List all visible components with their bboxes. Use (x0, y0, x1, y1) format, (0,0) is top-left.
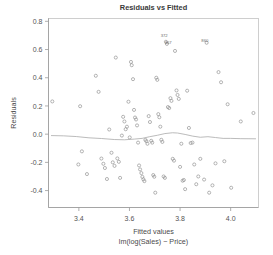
data-point (119, 176, 122, 179)
data-point (125, 125, 128, 128)
data-point (187, 126, 190, 129)
data-point (139, 168, 142, 171)
data-point (120, 134, 123, 137)
data-point (199, 157, 202, 160)
y-tick-label--0.2: -0.2 (30, 159, 42, 166)
lowess-smoother-line (51, 133, 256, 140)
data-point (175, 89, 178, 92)
data-point (105, 177, 108, 180)
data-point (138, 164, 141, 167)
x-axis-sublabel: lm(log(Sales) ~ Price) (119, 237, 188, 246)
data-point (108, 128, 111, 131)
data-point (100, 157, 103, 160)
outlier-label-367: 367 (165, 40, 173, 45)
outlier-labels: 372367860 (161, 33, 209, 45)
data-point (116, 157, 119, 160)
plot-box (49, 19, 259, 208)
data-point (239, 120, 242, 123)
data-point (184, 188, 187, 191)
data-point (173, 49, 176, 52)
data-point (111, 161, 114, 164)
data-point (114, 56, 117, 59)
x-tick-label-3.6: 3.6 (125, 215, 135, 222)
data-point (103, 166, 106, 169)
y-tick-label-0.4: 0.4 (33, 74, 43, 81)
data-point (148, 120, 151, 123)
data-point (186, 89, 189, 92)
x-tick-label-3.8: 3.8 (175, 215, 185, 222)
x-tick-label-4.0: 4.0 (226, 215, 236, 222)
data-point (214, 162, 217, 165)
plot-frame (49, 19, 259, 208)
data-point (77, 163, 80, 166)
data-point (110, 151, 113, 154)
scatter-points (51, 40, 255, 194)
data-point (129, 60, 132, 63)
data-point (159, 125, 162, 128)
data-point (197, 175, 200, 178)
data-point (113, 164, 116, 167)
data-point (127, 100, 130, 103)
data-point (140, 172, 143, 175)
data-point (123, 120, 126, 123)
data-point (223, 160, 226, 163)
data-point (117, 160, 120, 163)
data-point (157, 113, 160, 116)
data-point (137, 141, 140, 144)
data-point (217, 71, 220, 74)
data-point (211, 184, 214, 187)
data-point (220, 81, 223, 84)
data-point (131, 78, 134, 81)
data-point (170, 99, 173, 102)
residuals-vs-fitted-plot: 372367860 3.43.63.84.00.80.60.40.20.0-0.… (0, 0, 273, 255)
outlier-label-860: 860 (201, 38, 209, 43)
data-point (252, 111, 255, 114)
data-point (147, 115, 150, 118)
data-point (128, 136, 131, 139)
y-axis-label: Residuals (9, 97, 18, 129)
y-tick-label-0.8: 0.8 (33, 18, 43, 25)
data-point (154, 191, 157, 194)
outlier-label-372: 372 (161, 33, 169, 38)
data-point (203, 178, 206, 181)
data-point (179, 165, 182, 168)
data-point (130, 64, 133, 67)
x-axis-label: Fitted values (133, 227, 174, 236)
data-point (195, 183, 198, 186)
data-point (132, 108, 135, 111)
data-point (177, 97, 180, 100)
y-tick-label-0.0: 0.0 (33, 131, 43, 138)
data-point (136, 124, 139, 127)
data-point (180, 142, 183, 145)
data-point (208, 191, 211, 194)
axis-ticks (45, 19, 259, 212)
data-point (85, 173, 88, 176)
y-tick-label-0.2: 0.2 (33, 103, 43, 110)
data-point (79, 105, 82, 108)
data-point (122, 115, 125, 118)
data-point (51, 100, 54, 103)
data-point (226, 103, 229, 106)
y-tick-label-0.6: 0.6 (33, 46, 43, 53)
x-tick-label-3.4: 3.4 (74, 215, 84, 222)
y-tick-label--0.4: -0.4 (30, 187, 42, 194)
data-point (158, 116, 161, 119)
smoother-path (51, 133, 256, 140)
data-point (230, 186, 233, 189)
chart-title: Residuals vs Fitted (120, 3, 188, 12)
data-point (193, 163, 196, 166)
data-point (176, 93, 179, 96)
data-point (97, 90, 100, 93)
data-point (80, 150, 83, 153)
data-point (102, 162, 105, 165)
plot-canvas: 372367860 3.43.63.84.00.80.60.40.20.0-0.… (0, 0, 273, 255)
data-point (94, 74, 97, 77)
